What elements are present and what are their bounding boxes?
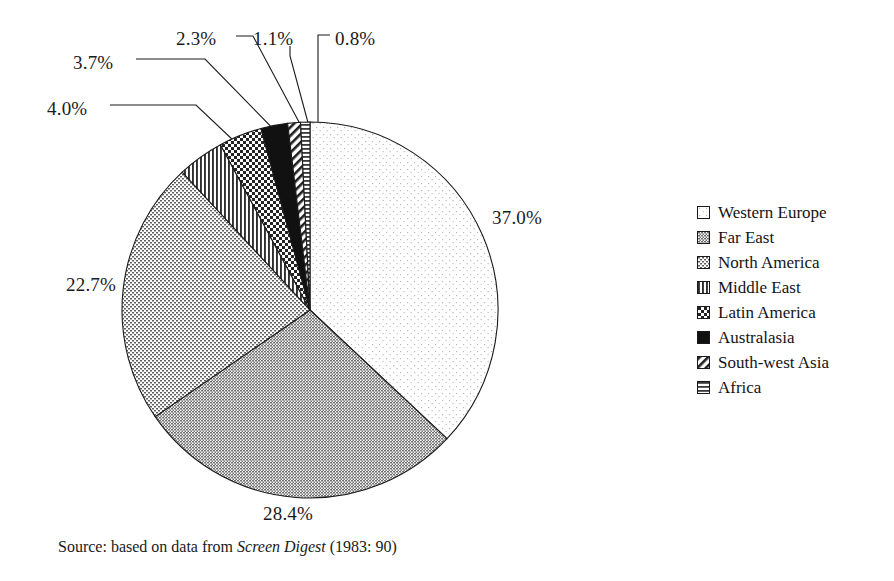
legend-item-latin-america[interactable]: Latin America [697, 300, 882, 325]
legend-label: Australasia [718, 329, 794, 346]
legend-swatch-solid-black-icon [697, 331, 710, 344]
source-suffix: (1983: 90) [326, 538, 397, 555]
legend-item-south-west-asia[interactable]: South-west Asia [697, 350, 882, 375]
percentage-label: 28.4% [263, 503, 313, 525]
percentage-label: 22.7% [66, 274, 116, 296]
legend-label: Far East [718, 229, 774, 246]
chart-legend: Western EuropeFar EastNorth AmericaMiddl… [697, 200, 882, 400]
legend-swatch-horizontal-stripes-icon [697, 381, 710, 394]
legend-swatch-checkerboard-grid-icon [697, 256, 710, 269]
legend-item-far-east[interactable]: Far East [697, 225, 882, 250]
legend-swatch-fine-dots-gray-icon [697, 231, 710, 244]
legend-swatch-blank-icon [697, 206, 710, 219]
legend-label: Africa [718, 379, 761, 396]
legend-item-africa[interactable]: Africa [697, 375, 882, 400]
pie-chart-figure: 4.0%3.7%2.3%1.1%0.8%37.0%22.7%28.4% West… [0, 0, 894, 581]
pie-slices [122, 122, 498, 498]
percentage-label: 1.1% [253, 28, 293, 50]
legend-label: Western Europe [718, 204, 827, 221]
legend-item-north-america[interactable]: North America [697, 250, 882, 275]
percentage-label: 3.7% [73, 52, 113, 74]
legend-label: North America [718, 254, 820, 271]
leader-line-africa [318, 35, 330, 128]
legend-swatch-vertical-stripes-icon [697, 281, 710, 294]
legend-item-australasia[interactable]: Australasia [697, 325, 882, 350]
source-prefix: Source: based on data from [58, 538, 237, 555]
legend-label: Latin America [718, 304, 816, 321]
leader-line-south-west-asia [290, 46, 310, 130]
legend-item-western-europe[interactable]: Western Europe [697, 200, 882, 225]
source-caption: Source: based on data from Screen Digest… [58, 538, 397, 556]
percentage-label: 37.0% [492, 207, 542, 229]
legend-label: Middle East [718, 279, 801, 296]
legend-label: South-west Asia [718, 354, 829, 371]
legend-swatch-coarse-checkerboard-icon [697, 306, 710, 319]
legend-item-middle-east[interactable]: Middle East [697, 275, 882, 300]
percentage-label: 4.0% [47, 98, 87, 120]
leader-line-australasia [236, 36, 307, 137]
percentage-label: 2.3% [176, 28, 216, 50]
percentage-label: 0.8% [335, 28, 375, 50]
legend-swatch-diagonal-stripes-icon [697, 356, 710, 369]
source-publication: Screen Digest [237, 538, 326, 555]
